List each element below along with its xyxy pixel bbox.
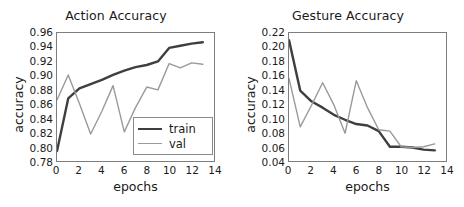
x-tick-label: 14 xyxy=(440,164,453,176)
y-tick-label: 0.78 xyxy=(5,156,53,168)
x-tick-label: 10 xyxy=(395,164,408,176)
x-tick-label: 2 xyxy=(307,164,314,176)
y-tick-label: 0.94 xyxy=(5,40,53,52)
legend-label-train: train xyxy=(169,122,196,136)
x-tick-label: 8 xyxy=(144,164,151,176)
chart-legend: train val xyxy=(133,117,213,155)
x-tick-label: 6 xyxy=(353,164,360,176)
x-tick-label: 0 xyxy=(53,164,60,176)
x-tick-label: 12 xyxy=(186,164,199,176)
y-tick-label: 0.22 xyxy=(237,26,285,38)
x-tick-label: 4 xyxy=(330,164,337,176)
x-tick-label: 14 xyxy=(208,164,221,176)
x-tick-label: 6 xyxy=(121,164,128,176)
chart-panel-gesture-accuracy: Gesture Accuracy 0.040.060.080.100.120.1… xyxy=(232,0,464,207)
x-tick-label: 8 xyxy=(376,164,383,176)
x-tick-label: 2 xyxy=(75,164,82,176)
legend-swatch-val xyxy=(138,143,162,144)
legend-label-val: val xyxy=(169,137,186,151)
x-tick-label: 4 xyxy=(98,164,105,176)
y-axis-label-right: accuracy xyxy=(243,55,258,155)
plot-area-gesture-accuracy xyxy=(288,32,447,162)
legend-item-val: val xyxy=(138,136,206,151)
series-line-val xyxy=(289,79,435,148)
y-axis-label-left: accuracy xyxy=(11,55,26,155)
y-tick-label: 0.04 xyxy=(237,156,285,168)
x-axis-label-left: epochs xyxy=(56,179,215,194)
x-axis-label-right: epochs xyxy=(288,179,447,194)
y-axis-ticks-right: 0.040.060.080.100.120.140.160.180.200.22 xyxy=(232,32,285,162)
figure-canvas: Action Accuracy 0.780.800.820.840.860.88… xyxy=(0,0,464,207)
plot-lines-gesture-accuracy xyxy=(289,33,446,161)
y-tick-label: 0.20 xyxy=(237,40,285,52)
legend-item-train: train xyxy=(138,121,206,136)
y-axis-ticks-left: 0.780.800.820.840.860.880.900.920.940.96 xyxy=(0,32,53,162)
x-tick-label: 10 xyxy=(163,164,176,176)
x-tick-label: 12 xyxy=(418,164,431,176)
chart-title-action-accuracy: Action Accuracy xyxy=(0,8,232,23)
x-axis-ticks-right: 02468101214 xyxy=(288,163,447,179)
chart-title-gesture-accuracy: Gesture Accuracy xyxy=(232,8,464,23)
y-tick-label: 0.96 xyxy=(5,26,53,38)
x-axis-ticks-left: 02468101214 xyxy=(56,163,215,179)
chart-panel-action-accuracy: Action Accuracy 0.780.800.820.840.860.88… xyxy=(0,0,232,207)
x-tick-label: 0 xyxy=(285,164,292,176)
legend-swatch-train xyxy=(138,128,162,130)
